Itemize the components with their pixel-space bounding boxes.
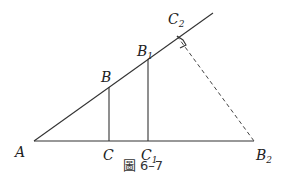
line-A-C2 (34, 13, 213, 141)
geometry-figure: A B C B1 C1 C2 B2 圖 6–7 (0, 0, 286, 191)
label-A: A (13, 144, 25, 160)
label-B: B (100, 69, 111, 85)
figure-caption: 圖 6–7 (123, 158, 163, 173)
label-B1: B1 (136, 43, 153, 61)
label-C: C (103, 147, 114, 163)
label-C2: C2 (168, 11, 185, 29)
label-B2: B2 (255, 147, 272, 165)
dashed-segment-C2-B2 (177, 36, 254, 141)
